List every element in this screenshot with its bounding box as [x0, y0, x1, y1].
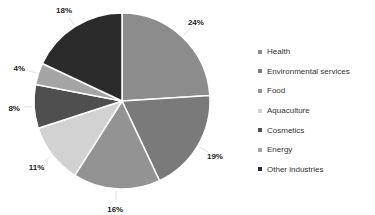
legend-label: Environmental services	[267, 67, 350, 76]
pie-label: 4%	[14, 64, 26, 73]
legend-label: Cosmetics	[267, 126, 304, 135]
legend-swatch	[258, 128, 262, 132]
legend-label: Other industries	[267, 165, 323, 174]
legend-swatch	[258, 89, 262, 93]
pie-label: 18%	[56, 6, 72, 15]
legend-swatch	[258, 167, 262, 171]
pie-label: 24%	[188, 18, 204, 27]
legend-label: Food	[267, 86, 285, 95]
legend-item-food: Food	[258, 81, 350, 101]
legend-swatch	[258, 148, 262, 152]
legend-swatch	[258, 69, 262, 73]
legend: Health Environmental services Food Aquac…	[258, 42, 350, 179]
legend-swatch	[258, 109, 262, 113]
legend-item-aquaculture: Aquaculture	[258, 101, 350, 121]
pie-label: 11%	[29, 163, 45, 172]
legend-item-environmental-services: Environmental services	[258, 62, 350, 82]
legend-item-cosmetics: Cosmetics	[258, 120, 350, 140]
legend-item-health: Health	[258, 42, 350, 62]
legend-label: Health	[267, 47, 290, 56]
pie-label: 8%	[8, 104, 20, 113]
legend-label: Energy	[267, 145, 292, 154]
pie-slices	[34, 13, 210, 189]
legend-item-other-industries: Other industries	[258, 160, 350, 180]
legend-label: Aquaculture	[267, 106, 310, 115]
legend-item-energy: Energy	[258, 140, 350, 160]
pie-label: 16%	[107, 205, 123, 214]
pie-label: 19%	[207, 152, 223, 161]
legend-swatch	[258, 50, 262, 54]
